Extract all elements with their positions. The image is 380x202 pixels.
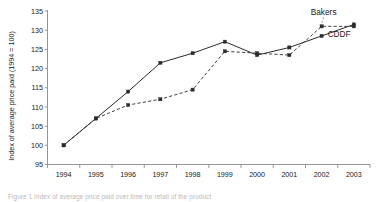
data-point-bakers-2001 [288,54,291,57]
data-point-bakers-1998 [191,88,194,91]
x-tick-label: 1999 [217,170,233,179]
x-tick-label: 1997 [152,170,168,179]
line-chart: 95100105110115120125130135 1994199519961… [0,0,380,202]
data-point-bakers-2002 [320,25,323,28]
chart-figure: 95100105110115120125130135 1994199519961… [0,0,380,202]
data-point-bakers-1997 [159,98,162,101]
y-tick-label: 115 [32,83,43,92]
data-point-bakers-1995 [94,117,97,120]
data-point-bakers-1994 [62,144,65,147]
data-point-bakers-1999 [223,50,226,53]
data-point-cddf-1996 [127,90,130,93]
data-point-cddf-2002 [320,34,323,37]
data-point-bakers-1996 [127,103,130,106]
x-tick-label: 1995 [88,170,104,179]
data-point-bakers-2003 [352,25,355,28]
y-tick-label: 100 [31,141,43,150]
x-tick-labels: 1994199519961997199819992000200120022003 [56,170,362,179]
y-tick-labels: 95100105110115120125130135 [31,7,43,170]
x-tick-label: 2002 [314,170,330,179]
y-axis-label: Index of average price paid (1994 = 100) [7,31,16,161]
x-tick-label: 1996 [120,170,136,179]
series-label-cddf: CDDF [328,29,351,39]
data-point-cddf-1998 [191,52,194,55]
y-tick-label: 110 [32,103,43,112]
y-tick-label: 130 [31,26,43,35]
axes [45,10,370,168]
data-series [62,23,355,147]
figure-caption: Figure 1 Index of average price paid ove… [8,193,211,200]
x-tick-label: 1994 [56,170,72,179]
y-tick-label: 135 [31,7,43,16]
y-tick-label: 120 [31,64,43,73]
x-tick-label: 2000 [249,170,265,179]
y-tick-label: 95 [35,160,43,169]
x-tick-label: 2003 [346,170,362,179]
x-tick-label: 2001 [281,170,297,179]
series-annotations: BakersCDDF [311,7,351,39]
series-line-cddf [64,24,354,145]
data-point-bakers-2000 [256,52,259,55]
y-tick-label: 105 [31,122,43,131]
series-line-bakers [64,26,354,145]
data-point-cddf-1999 [223,40,226,43]
y-tick-label: 125 [31,45,43,54]
x-tick-label: 1998 [185,170,201,179]
data-point-cddf-1997 [159,61,162,64]
data-point-cddf-2001 [288,46,291,49]
series-label-bakers: Bakers [311,7,337,17]
